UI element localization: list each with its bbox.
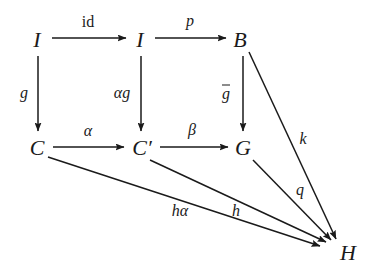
edge-label-h: h: [232, 203, 240, 219]
node-G: G: [235, 137, 251, 159]
node-H: H: [340, 242, 356, 264]
node-C-prime: C′: [132, 137, 152, 159]
edge-label-alpha: α: [84, 123, 92, 139]
edge-label-id: id: [82, 14, 94, 30]
node-I-top-middle: I: [136, 29, 143, 51]
edge-label-q: q: [296, 182, 304, 198]
node-C: C: [30, 137, 45, 159]
arrow-k: [249, 52, 336, 239]
g-bar-glyph: g: [222, 85, 230, 102]
node-B: B: [233, 29, 246, 51]
edge-label-g-bar: g: [222, 85, 230, 102]
commutative-diagram: I I B C C′ G H id p g αg g α β k q h hα: [0, 0, 380, 277]
edge-label-k: k: [299, 131, 306, 147]
edge-label-p: p: [186, 13, 194, 29]
arrow-h: [150, 160, 326, 242]
edge-label-beta: β: [188, 122, 196, 138]
edge-label-alpha-g: αg: [114, 85, 130, 101]
node-I-top-left: I: [33, 29, 40, 51]
edge-label-h-alpha: hα: [172, 203, 188, 219]
diagram-arrows-canvas: [0, 0, 380, 277]
edge-label-g: g: [20, 85, 28, 101]
